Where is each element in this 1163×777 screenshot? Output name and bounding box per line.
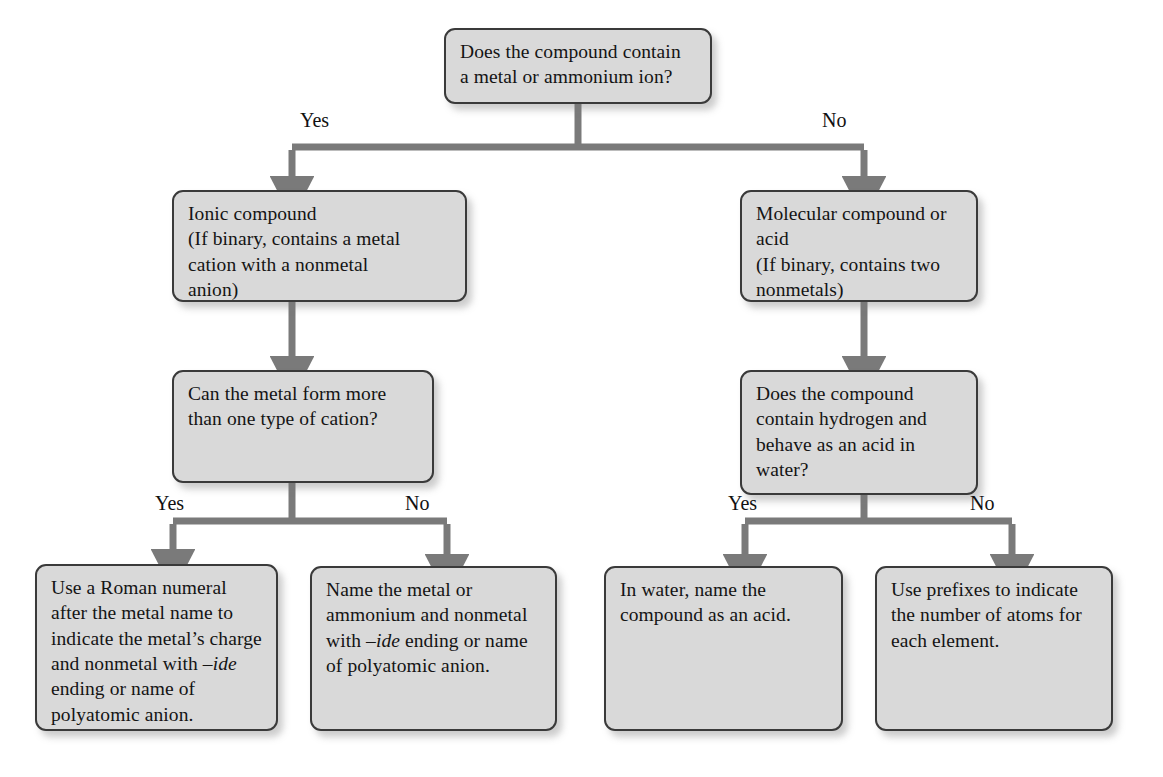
flowchart-canvas: Does the compound contain a metal or amm… [0, 0, 1163, 777]
node-molecular-compound[interactable]: Molecular compound or acid (If binary, c… [740, 190, 978, 302]
node-name-metal-line-3: of polyatomic anion. [326, 653, 542, 678]
node-metal-cation-line-1: than one type of cation? [188, 406, 419, 431]
node-root-line-0: Does the compound contain [460, 39, 697, 64]
node-name-metal-line-2: with –ide ending or name [326, 628, 542, 653]
node-acid-question-line-1: contain hydrogen and [756, 406, 963, 431]
node-roman-numeral[interactable]: Use a Roman numeralafter the metal name … [35, 564, 278, 731]
node-molecular-line-1: acid [756, 226, 963, 251]
node-ionic-line-0: Ionic compound [188, 201, 452, 226]
node-roman-numeral-line-4: ending or name of [51, 676, 263, 701]
node-metal-cation-question[interactable]: Can the metal form more than one type of… [172, 370, 434, 483]
branch-label-right-no: No [970, 493, 994, 513]
node-root-question[interactable]: Does the compound contain a metal or amm… [444, 28, 712, 104]
node-prefixes-line-1: the number of atoms for [891, 602, 1098, 627]
node-prefixes[interactable]: Use prefixes to indicatethe number of at… [875, 566, 1113, 731]
node-molecular-line-3: nonmetals) [756, 277, 963, 302]
node-roman-numeral-line-2: indicate the metal’s charge [51, 626, 263, 651]
node-acid-name-line-0: In water, name the [620, 577, 828, 602]
node-acid-name-line-1: compound as an acid. [620, 602, 828, 627]
node-acid-question-line-3: water? [756, 457, 963, 482]
branch-label-left-no: No [405, 493, 429, 513]
node-molecular-line-0: Molecular compound or [756, 201, 963, 226]
node-acid-question-line-0: Does the compound [756, 381, 963, 406]
branch-label-right-yes: Yes [728, 493, 757, 513]
node-name-metal-line-1: ammonium and nonmetal [326, 602, 542, 627]
branch-label-root-yes: Yes [300, 110, 329, 130]
node-roman-numeral-line-0: Use a Roman numeral [51, 575, 263, 600]
node-ionic-line-3: anion) [188, 277, 452, 302]
node-ionic-line-1: (If binary, contains a metal [188, 226, 452, 251]
node-ionic-compound[interactable]: Ionic compound (If binary, contains a me… [172, 190, 467, 302]
node-roman-numeral-line-5: polyatomic anion. [51, 702, 263, 727]
node-prefixes-line-0: Use prefixes to indicate [891, 577, 1098, 602]
node-name-metal[interactable]: Name the metal orammonium and nonmetalwi… [310, 566, 557, 731]
node-metal-cation-line-0: Can the metal form more [188, 381, 419, 406]
branch-label-left-yes: Yes [155, 493, 184, 513]
node-ionic-line-2: cation with a nonmetal [188, 252, 452, 277]
node-acid-question[interactable]: Does the compound contain hydrogen and b… [740, 370, 978, 495]
node-acid-question-line-2: behave as an acid in [756, 432, 963, 457]
node-prefixes-line-2: each element. [891, 628, 1098, 653]
node-roman-numeral-line-1: after the metal name to [51, 600, 263, 625]
node-roman-numeral-line-3: and nonmetal with –ide [51, 651, 263, 676]
node-acid-name[interactable]: In water, name thecompound as an acid. [604, 566, 843, 731]
branch-label-root-no: No [822, 110, 846, 130]
node-molecular-line-2: (If binary, contains two [756, 252, 963, 277]
node-name-metal-line-0: Name the metal or [326, 577, 542, 602]
node-root-line-1: a metal or ammonium ion? [460, 64, 697, 89]
